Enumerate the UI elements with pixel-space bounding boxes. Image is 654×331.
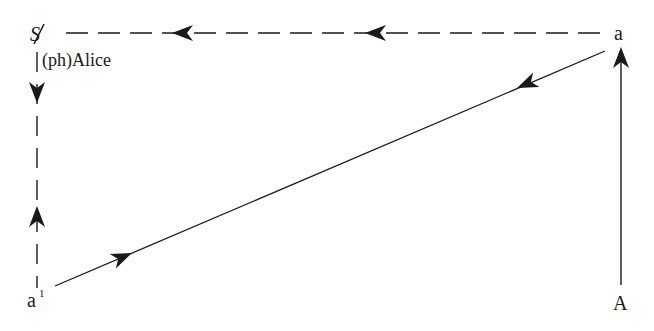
caption-ph-alice: (ph)Alice xyxy=(42,50,111,71)
arrowhead-top-right xyxy=(365,25,386,41)
node-a1-label: a xyxy=(27,289,36,311)
node-big-a-label: A xyxy=(613,292,628,314)
node-a1: a 1 xyxy=(27,287,45,311)
node-a-label: a xyxy=(614,22,623,44)
schema-l-diagram: S (ph)Alice a a 1 A xyxy=(0,0,654,331)
node-barred-s: S xyxy=(30,23,44,45)
arrowhead-top-left xyxy=(172,25,193,41)
arrowhead-diagonal-upright xyxy=(110,246,136,269)
node-a1-superscript: 1 xyxy=(39,287,45,299)
arrowhead-diagonal-downleft xyxy=(514,72,540,95)
